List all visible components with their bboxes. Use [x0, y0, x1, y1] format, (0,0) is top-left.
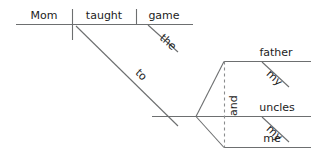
label-direct-object: game [148, 10, 179, 21]
fork-branch-lower [196, 117, 224, 148]
sentence-diagram-canvas: Mom taught game the to father uncles me … [0, 0, 315, 163]
label-conjunction: and [228, 95, 239, 116]
label-object-two: uncles [259, 102, 295, 113]
label-object-one: father [259, 47, 292, 58]
fork-branch-upper [196, 62, 224, 117]
label-verb: taught [86, 10, 122, 21]
label-subject: Mom [31, 10, 58, 21]
